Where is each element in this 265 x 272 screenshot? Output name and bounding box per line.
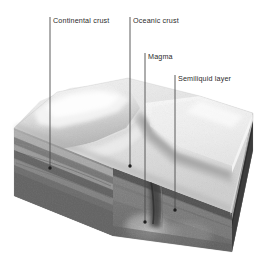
- leader-dot-continental-crust: [48, 166, 51, 169]
- callout-label-magma: Magma: [148, 52, 173, 61]
- diagram-artwork: [0, 0, 265, 272]
- leader-dot-oceanic-crust: [128, 164, 131, 167]
- callout-label-continental-crust: Continental crust: [53, 16, 109, 25]
- subduction-block-diagram: Continental crust Oceanic crust Magma Se…: [0, 0, 265, 272]
- callout-label-oceanic-crust: Oceanic crust: [133, 16, 179, 25]
- leader-dot-semiliquid-layer: [173, 208, 176, 211]
- leader-dot-magma: [143, 220, 146, 223]
- callout-label-semiliquid-layer: Semiliquid layer: [178, 74, 231, 83]
